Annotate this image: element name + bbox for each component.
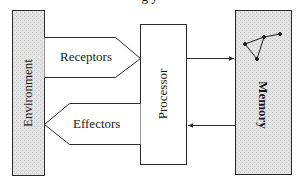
environment-label: Environment	[20, 57, 36, 129]
receptors-label: Receptors	[60, 49, 112, 65]
effectors-label: Effectors	[73, 116, 120, 132]
diagram-caption-cropped: g y	[0, 0, 299, 5]
memory-label: Memory	[255, 76, 271, 134]
agent-architecture-diagram: g y Receptors Effectors Environment Proc…	[0, 0, 299, 183]
processor-label: Processor	[155, 61, 171, 127]
